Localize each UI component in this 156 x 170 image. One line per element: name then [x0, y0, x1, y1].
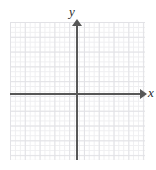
- y-axis-label: y: [69, 5, 75, 18]
- coordinate-plane-figure: x y: [0, 0, 156, 170]
- x-axis-arrowhead-icon: [140, 89, 147, 99]
- y-axis-arrowhead-icon: [72, 19, 82, 26]
- y-axis-line: [76, 24, 78, 160]
- x-axis-label: x: [148, 86, 154, 99]
